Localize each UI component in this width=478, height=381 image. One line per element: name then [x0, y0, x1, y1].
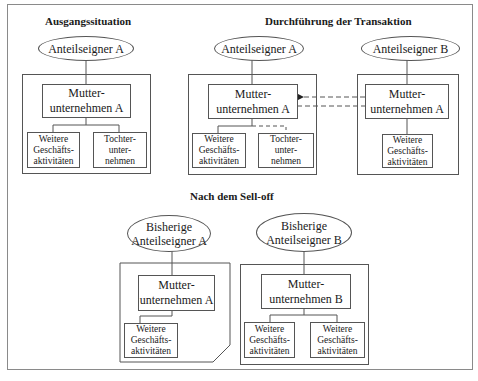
- after-left-parent-node: Mutter- unternehmen A: [138, 275, 215, 311]
- buyer-parent-node: Mutter- unternehmen A: [365, 84, 449, 119]
- section-title-transaction: Durchführung der Transaktion: [265, 15, 412, 27]
- child-node-subsidiary: Tochter- unter- nehmen: [93, 132, 147, 168]
- after-right-parent-node: Mutter- unternehmen B: [261, 274, 351, 309]
- parent-company-node: Mutter- unternehmen A: [42, 84, 131, 118]
- buyer-child-other-business: Weitere Geschäfts- aktivitäten: [382, 134, 433, 168]
- section-title-initial: Ausgangssituation: [45, 15, 131, 27]
- seller-child-subsidiary: Tochter- unter- nehmen: [258, 133, 314, 168]
- after-right-child-other-business-2: Weitere Geschäfts- aktivitäten: [310, 322, 365, 358]
- section-title-after: Nach dem Sell-off: [190, 190, 274, 202]
- child-node-other-business: Weitere Geschäfts- aktivitäten: [27, 132, 80, 168]
- seller-parent-node: Mutter- unternehmen A: [208, 84, 298, 119]
- connector-after-left-parent-child: [140, 310, 172, 323]
- after-left-shareholder-ellipse: Bisherige Anteilseigner A: [127, 215, 211, 252]
- buyer-shareholder-ellipse: Anteilseigner B: [361, 36, 460, 61]
- after-left-child-other-business: Weitere Geschäfts- aktivitäten: [124, 323, 178, 358]
- seller-shareholder-ellipse: Anteilseigner A: [214, 36, 304, 61]
- seller-child-other-business: Weitere Geschäfts- aktivitäten: [192, 133, 246, 168]
- after-right-shareholder-ellipse: Bisherige Anteilseigner B: [256, 213, 352, 252]
- shareholder-ellipse: Anteilseigner A: [38, 36, 134, 61]
- after-right-child-other-business-1: Weitere Geschäfts- aktivitäten: [244, 322, 295, 358]
